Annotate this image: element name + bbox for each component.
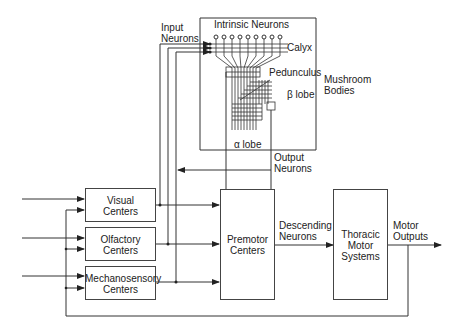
mushroom-bodies-label-1: Mushroom: [324, 74, 371, 85]
mechanosensory-centers-label-1: Mechanosensory: [85, 273, 156, 284]
premotor-centers-label-2: Centers: [220, 245, 275, 256]
olfactory-centers-label-2: Centers: [85, 245, 156, 256]
visual-centers-label-2: Centers: [85, 206, 156, 217]
thoracic-label-3: Systems: [333, 251, 388, 262]
output-neurons-label-1: Output: [274, 152, 304, 163]
mechanosensory-centers-label-2: Centers: [85, 284, 156, 295]
alpha-lobe-label: α lobe: [234, 139, 261, 150]
intrinsic-neurons-label: Intrinsic Neurons: [214, 19, 289, 30]
pedunculus-label: Pedunculus: [269, 67, 321, 78]
input-neurons-label-2: Neurons: [161, 33, 199, 44]
input-neurons-label-1: Input: [161, 22, 183, 33]
visual-centers-label-1: Visual: [85, 195, 156, 206]
motor-outputs-label-2: Outputs: [393, 231, 428, 242]
motor-outputs-label-1: Motor: [393, 220, 419, 231]
thoracic-label-1: Thoracic: [333, 229, 388, 240]
descending-neurons-label-1: Descending: [279, 220, 332, 231]
calyx-label: Calyx: [287, 42, 312, 53]
premotor-centers-label-1: Premotor: [220, 234, 275, 245]
mushroom-bodies-label-2: Bodies: [324, 85, 355, 96]
output-neurons-label-2: Neurons: [274, 163, 312, 174]
descending-neurons-label-2: Neurons: [279, 231, 317, 242]
beta-lobe-label: β lobe: [287, 89, 314, 100]
intrinsic-neuron-cells: [214, 35, 282, 39]
olfactory-centers-label-1: Olfactory: [85, 234, 156, 245]
thoracic-label-2: Motor: [333, 240, 388, 251]
